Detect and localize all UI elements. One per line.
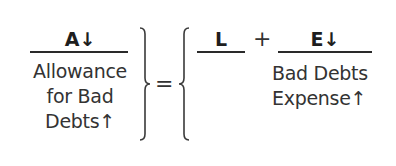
equity-account-label: Bad Debts Expense↑ [272,61,392,111]
plus-sign: + [253,28,271,50]
liabilities-rule [197,51,245,53]
equity-header: E↓ [278,28,372,50]
assets-rule [30,51,128,53]
assets-account-line-2: for Bad [22,84,138,109]
assets-header: A↓ [30,28,130,50]
left-brace-icon [177,26,191,142]
liabilities-header: L [197,28,245,50]
equity-rule [278,51,372,53]
equals-sign: = [155,73,173,95]
assets-account-line-1: Allowance [22,59,138,84]
equity-account-line-1: Bad Debts [272,61,392,86]
assets-account-line-3: Debts↑ [22,109,138,134]
equity-account-line-2: Expense↑ [272,86,392,111]
right-brace-icon [138,26,152,142]
assets-account-label: Allowance for Bad Debts↑ [22,59,138,134]
